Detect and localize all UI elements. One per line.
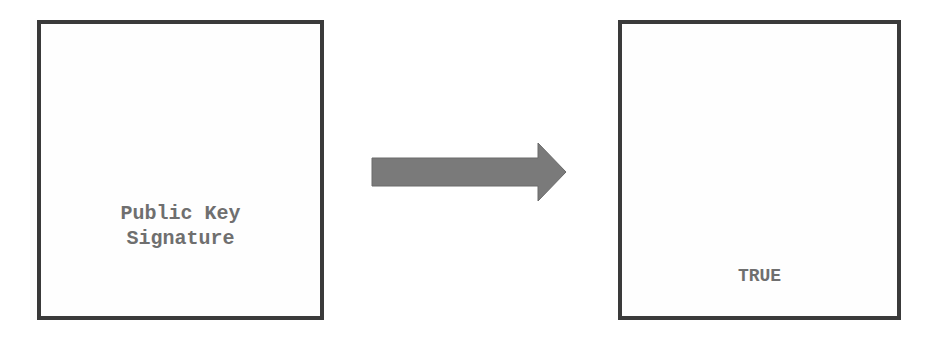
output-box: TRUE xyxy=(618,20,901,320)
input-box-label: Public Key Signature xyxy=(41,201,320,251)
input-box: Public Key Signature xyxy=(37,20,324,320)
output-box-label: TRUE xyxy=(622,264,897,289)
right-arrow-icon xyxy=(370,140,570,204)
